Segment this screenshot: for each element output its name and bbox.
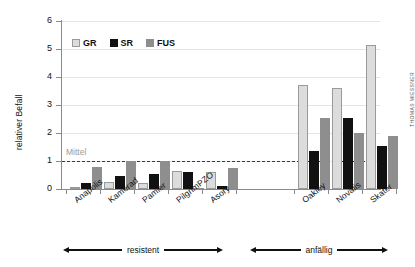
annotation-label-resistent: resistent <box>122 245 164 255</box>
legend-swatch-fus <box>146 39 154 47</box>
bar-gr <box>138 183 148 189</box>
bar-group <box>332 21 366 189</box>
arrow-line <box>256 249 301 251</box>
arrow-line <box>337 249 382 251</box>
x-axis-tick <box>294 189 295 194</box>
x-axis-tick <box>396 189 397 194</box>
y-axis-tick-label: 6 <box>26 16 52 25</box>
credit-text: THOMAS MIESSNER <box>409 72 415 127</box>
x-axis-tick <box>362 189 363 194</box>
bar-gr <box>366 45 376 189</box>
legend: GR SR FUS <box>72 38 175 48</box>
x-axis-tick <box>168 189 169 194</box>
x-axis-tick <box>134 189 135 194</box>
x-axis-tick <box>202 189 203 194</box>
arrow-line <box>69 249 122 251</box>
bar-gr <box>70 187 80 189</box>
bar-gr <box>298 85 308 189</box>
y-axis-tick-label: 3 <box>26 100 52 109</box>
y-axis-tick <box>56 77 61 78</box>
y-axis-tick <box>56 105 61 106</box>
x-axis-tick <box>100 189 101 194</box>
legend-label-fus: FUS <box>157 38 175 48</box>
annotation-anfaellig: anfällig <box>250 243 388 257</box>
bar-gr <box>104 182 114 189</box>
bar-group <box>366 21 400 189</box>
bar-group <box>206 21 240 189</box>
y-axis-tick <box>56 49 61 50</box>
bar-sr <box>343 118 353 189</box>
y-axis-tick <box>56 161 61 162</box>
bar-group <box>298 21 332 189</box>
annotation-label-anfaellig: anfällig <box>301 245 338 255</box>
bar-gr <box>172 171 182 189</box>
legend-label-gr: GR <box>83 38 97 48</box>
bar-fus <box>320 118 330 189</box>
bar-gr <box>332 88 342 189</box>
y-axis-tick-label: 4 <box>26 72 52 81</box>
y-axis-tick <box>56 189 61 190</box>
arrow-head-right-icon <box>217 247 223 253</box>
y-axis-tick <box>56 133 61 134</box>
legend-item-sr: SR <box>110 38 134 48</box>
annotation-resistent: resistent <box>63 243 223 257</box>
bar-group <box>172 21 206 189</box>
y-axis-title: relativer Befall <box>14 95 24 150</box>
bar-fus <box>228 168 238 189</box>
legend-label-sr: SR <box>121 38 134 48</box>
y-axis-tick <box>56 21 61 22</box>
y-axis-tick-label: 1 <box>26 156 52 165</box>
y-axis-tick-label: 0 <box>26 184 52 193</box>
y-axis-tick-label: 5 <box>26 44 52 53</box>
legend-item-fus: FUS <box>146 38 175 48</box>
x-axis-tick <box>328 189 329 194</box>
arrow-head-right-icon <box>382 247 388 253</box>
legend-item-gr: GR <box>72 38 97 48</box>
legend-swatch-gr <box>72 39 80 47</box>
x-axis-tick <box>236 189 237 194</box>
x-axis-tick <box>66 189 67 194</box>
y-axis-tick-label: 2 <box>26 128 52 137</box>
arrow-line <box>164 249 217 251</box>
bar-fus <box>388 136 398 189</box>
legend-swatch-sr <box>110 39 118 47</box>
